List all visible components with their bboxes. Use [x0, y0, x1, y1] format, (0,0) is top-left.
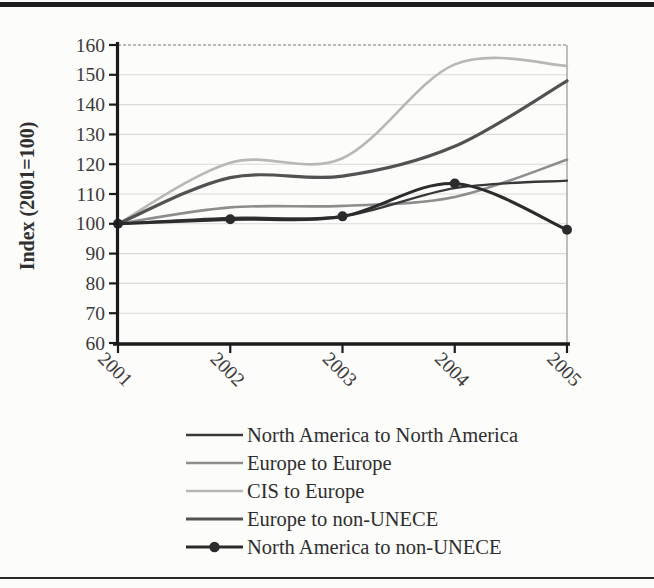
legend-swatch-1 [186, 456, 243, 470]
x-axis-tick-labels: 20012002200320042005 [94, 348, 585, 391]
y-axis-title: Index (2001=100) [16, 122, 39, 271]
x-tick-label-2002: 2002 [206, 348, 248, 390]
y-tick-label-90: 90 [86, 243, 106, 264]
legend-item-3: Europe to non-UNECE [186, 505, 518, 533]
legend-item-0: North America to North America [186, 421, 518, 449]
legend-swatch-2 [186, 484, 243, 498]
series-4-marker-4 [562, 225, 572, 235]
trade-index-line-chart: Index (2001=100) 60708090100110120130140… [0, 0, 654, 420]
y-tick-label-140: 140 [76, 94, 105, 115]
y-tick-label-100: 100 [76, 213, 105, 234]
y-tick-label-110: 110 [76, 184, 105, 205]
x-tick-label-2004: 2004 [431, 348, 474, 391]
series-4-marker-1 [225, 214, 235, 224]
legend-label: Europe to Europe [247, 453, 392, 474]
legend-marker-icon [209, 542, 219, 552]
page-bottom-rule [0, 577, 654, 579]
legend-label: North America to North America [247, 425, 518, 446]
x-tick-label-2003: 2003 [319, 348, 361, 390]
legend-swatch-3 [186, 512, 243, 526]
y-tick-label-120: 120 [76, 154, 105, 175]
page-top-rule [0, 2, 654, 7]
legend-swatch-0 [186, 428, 243, 442]
series-line-2 [118, 58, 567, 224]
x-tick-label-2005: 2005 [543, 348, 585, 390]
legend-swatch-4 [186, 540, 243, 554]
y-axis-tick-labels: 60708090100110120130140150160 [76, 35, 105, 354]
legend-label: North America to non-UNECE [247, 537, 502, 558]
y-tick-label-160: 160 [76, 35, 105, 56]
chart-legend: North America to North AmericaEurope to … [186, 421, 518, 561]
legend-item-4: North America to non-UNECE [186, 533, 518, 561]
x-tick-label-2001: 2001 [94, 348, 136, 390]
legend-label: Europe to non-UNECE [247, 509, 438, 530]
y-tick-label-70: 70 [86, 303, 106, 324]
legend-label: CIS to Europe [247, 481, 364, 502]
series-lines [113, 58, 572, 235]
y-tick-label-80: 80 [86, 273, 106, 294]
legend-item-1: Europe to Europe [186, 449, 518, 477]
y-tick-label-60: 60 [86, 333, 106, 354]
series-4-marker-2 [338, 211, 348, 221]
legend-item-2: CIS to Europe [186, 477, 518, 505]
series-line-3 [118, 81, 567, 224]
y-tick-label-150: 150 [76, 64, 105, 85]
series-4-marker-3 [450, 179, 460, 189]
y-tick-label-130: 130 [76, 124, 105, 145]
